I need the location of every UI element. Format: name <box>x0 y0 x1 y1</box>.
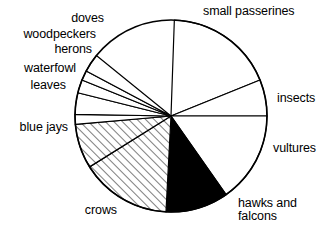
slice-label-blue-jays: blue jays <box>8 121 68 135</box>
slice-label-leaves: leaves <box>13 79 66 93</box>
slice-label-vultures: vultures <box>273 142 316 156</box>
slice-label-waterfowl: waterfowl <box>2 62 76 76</box>
slice-label-insects: insects <box>277 92 315 106</box>
slice-label-hawks-and-falcons-line2: falcons <box>238 210 277 224</box>
slice-label-herons: herons <box>20 43 92 57</box>
slice-label-woodpeckers: woodpeckers <box>2 28 96 42</box>
pie-slices-group <box>75 20 267 212</box>
pie-chart-figure: small passerines insects vultures hawks … <box>0 0 326 232</box>
slice-label-small-passerines: small passerines <box>203 5 295 19</box>
slice-label-doves: doves <box>42 12 104 26</box>
slice-label-crows: crows <box>73 204 117 218</box>
